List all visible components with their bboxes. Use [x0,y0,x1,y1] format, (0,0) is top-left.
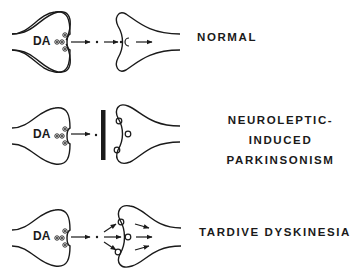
condition-title-tardive: TARDIVE DYSKINESIA [199,222,351,242]
vesicles [55,229,67,247]
vesicles [55,33,67,51]
condition-title-parkinsonism: NEUROLEPTIC-INDUCED PARKINSONISM [198,110,363,170]
title-line: NEUROLEPTIC-INDUCED [198,110,363,150]
dopamine-molecule [96,41,98,43]
diffusion-arrows [104,224,121,250]
condition-title-normal: NORMAL [197,27,257,47]
dopamine-label-normal: DA [33,34,50,48]
postsynaptic-terminal [118,206,181,267]
title-line: TARDIVE DYSKINESIA [199,222,351,242]
dopamine-molecule [96,236,98,238]
dopamine-label-parkinsonism: DA [33,127,50,141]
vesicles [55,127,67,145]
dopamine-molecule [95,134,97,136]
title-line: NORMAL [197,27,257,47]
neuroleptic-blockade-bar [101,110,106,160]
amplified-signal-arrows [135,224,152,250]
postsynaptic-terminal [116,105,180,163]
dopamine-label-tardive: DA [33,229,50,243]
title-line: PARKINSONISM [198,150,363,170]
receptor [125,38,129,46]
